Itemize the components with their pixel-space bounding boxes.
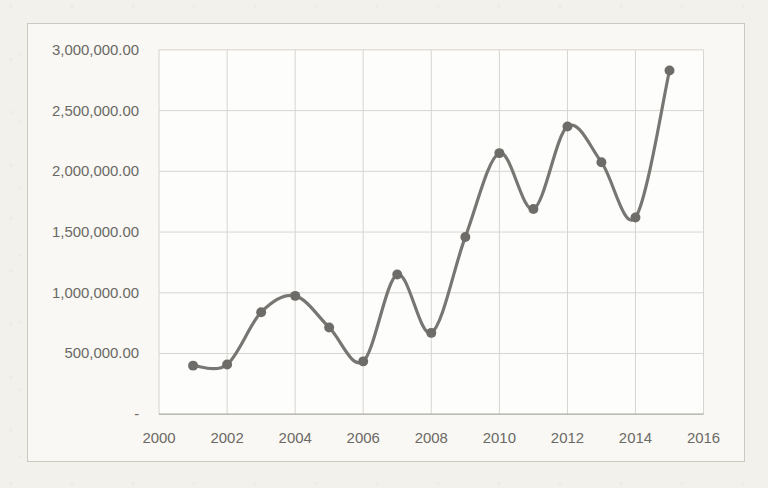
data-point-marker xyxy=(460,232,470,242)
data-point-marker xyxy=(222,359,232,369)
data-point-marker xyxy=(562,121,572,131)
y-axis-tick-label: 1,000,000.00 xyxy=(52,284,139,301)
data-point-marker xyxy=(494,148,504,158)
data-point-marker xyxy=(596,157,606,167)
data-point-marker xyxy=(256,307,266,317)
y-axis-tick-label: 2,500,000.00 xyxy=(52,102,139,119)
x-axis-tick-label: 2010 xyxy=(483,429,516,446)
x-axis-tick-label: 2014 xyxy=(619,429,652,446)
chart-frame: 3,000,000.002,500,000.002,000,000.001,50… xyxy=(27,23,745,462)
x-axis-tick-label: 2008 xyxy=(415,429,448,446)
data-point-marker xyxy=(426,328,436,338)
y-axis-tick-label: 1,500,000.00 xyxy=(52,223,139,240)
y-axis-tick-label: 3,000,000.00 xyxy=(52,41,139,58)
y-axis-tick-label: - xyxy=(134,405,139,422)
x-axis-tick-label: 2002 xyxy=(211,429,244,446)
data-point-marker xyxy=(665,66,675,76)
data-point-marker xyxy=(324,322,334,332)
x-axis-tick-label: 2000 xyxy=(142,429,175,446)
y-axis-tick-label: 2,000,000.00 xyxy=(52,162,139,179)
x-axis-tick-label: 2004 xyxy=(279,429,312,446)
data-point-marker xyxy=(630,213,640,223)
line-chart: 3,000,000.002,500,000.002,000,000.001,50… xyxy=(28,24,744,461)
data-point-marker xyxy=(528,204,538,214)
data-point-marker xyxy=(290,291,300,301)
data-point-marker xyxy=(358,356,368,366)
x-axis-tick-label: 2016 xyxy=(687,429,720,446)
x-axis-tick-label: 2006 xyxy=(347,429,380,446)
x-axis-tick-label: 2012 xyxy=(551,429,584,446)
data-point-marker xyxy=(392,270,402,280)
data-point-marker xyxy=(188,361,198,371)
y-axis-tick-label: 500,000.00 xyxy=(64,344,139,361)
